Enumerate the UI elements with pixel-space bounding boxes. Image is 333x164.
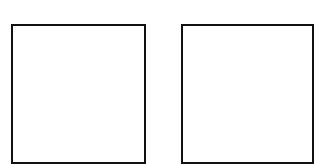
left-empty-box	[11, 24, 146, 164]
right-empty-box	[181, 24, 314, 164]
